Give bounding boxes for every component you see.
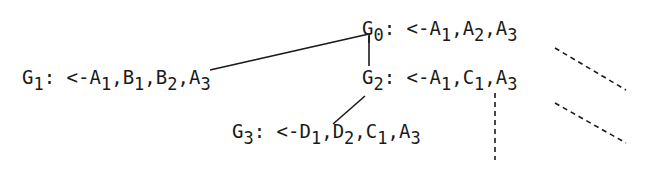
edge-g2-continuation xyxy=(555,103,626,143)
literal-index: 1 xyxy=(311,128,321,148)
goal-label: G xyxy=(232,120,243,142)
comma: , xyxy=(484,66,495,88)
goal-node-g0: G0: <-A1,A2,A3 xyxy=(362,17,517,45)
comma: , xyxy=(144,66,155,88)
goal-label: G xyxy=(362,17,373,39)
literal-index: 1 xyxy=(134,74,144,94)
literal-index: 3 xyxy=(410,128,420,148)
goal-node-g2: G2: <-A1,C1,A3 xyxy=(362,66,517,94)
separator: : <- xyxy=(44,66,90,88)
goal-label: G xyxy=(362,66,373,88)
literal: D xyxy=(333,120,344,142)
comma: , xyxy=(321,120,332,142)
separator: : <- xyxy=(384,66,430,88)
literal: A xyxy=(429,17,440,39)
comma: , xyxy=(484,17,495,39)
literal: A xyxy=(89,66,100,88)
literal: A xyxy=(463,17,474,39)
literal: A xyxy=(496,66,507,88)
comma: , xyxy=(451,17,462,39)
literal-index: 1 xyxy=(441,25,451,45)
literal-index: 1 xyxy=(101,74,111,94)
comma: , xyxy=(451,66,462,88)
comma: , xyxy=(177,66,188,88)
comma: , xyxy=(111,66,122,88)
literal-index: 1 xyxy=(377,128,387,148)
literal-index: 1 xyxy=(441,74,451,94)
separator: : <- xyxy=(384,17,430,39)
literal: B xyxy=(123,66,134,88)
literal-index: 3 xyxy=(507,74,517,94)
literal: C xyxy=(366,120,377,142)
goal-index: 0 xyxy=(373,25,383,45)
literal-index: 1 xyxy=(474,74,484,94)
goal-node-g1: G1: <-A1,B1,B2,A3 xyxy=(22,66,211,94)
literal-index: 2 xyxy=(167,74,177,94)
literal: A xyxy=(496,17,507,39)
literal: D xyxy=(299,120,310,142)
goal-index: 2 xyxy=(373,74,383,94)
literal-index: 2 xyxy=(344,128,354,148)
literal: A xyxy=(429,66,440,88)
goal-index: 3 xyxy=(243,128,253,148)
literal-index: 3 xyxy=(507,25,517,45)
edge-g0-g1 xyxy=(210,34,369,70)
literal-index: 2 xyxy=(474,25,484,45)
literal: C xyxy=(463,66,474,88)
comma: , xyxy=(387,120,398,142)
goal-index: 1 xyxy=(33,74,43,94)
literal-index: 3 xyxy=(200,74,210,94)
goal-node-g3: G3: <-D1,D2,C1,A3 xyxy=(232,120,421,148)
edge-g0-continuation xyxy=(555,48,626,90)
goal-label: G xyxy=(22,66,33,88)
literal: A xyxy=(399,120,410,142)
separator: : <- xyxy=(254,120,300,142)
literal: A xyxy=(189,66,200,88)
comma: , xyxy=(354,120,365,142)
literal: B xyxy=(156,66,167,88)
